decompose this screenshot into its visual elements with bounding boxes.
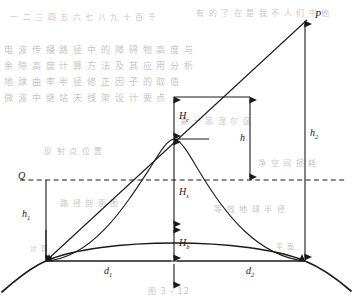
label-q: Q — [18, 171, 25, 181]
path-profile-drawing — [0, 0, 353, 302]
label-h2: h2 — [310, 128, 318, 141]
label-hb: Hb — [179, 238, 189, 251]
line-of-sight — [46, 20, 307, 261]
label-hc: Hc — [179, 111, 189, 124]
label-hs: Hs — [179, 187, 189, 200]
label-d1: d1 — [104, 266, 112, 279]
earth-surface-curve — [2, 243, 351, 292]
label-h: h — [240, 133, 245, 143]
label-d2: d2 — [246, 266, 254, 279]
label-p: P — [315, 10, 321, 20]
label-h1: h1 — [22, 209, 30, 222]
diagram-canvas: 一 二 三 四 五 六 七 八 九 十 百 千有 的 了 在 是 我 不 人 们… — [0, 0, 353, 302]
